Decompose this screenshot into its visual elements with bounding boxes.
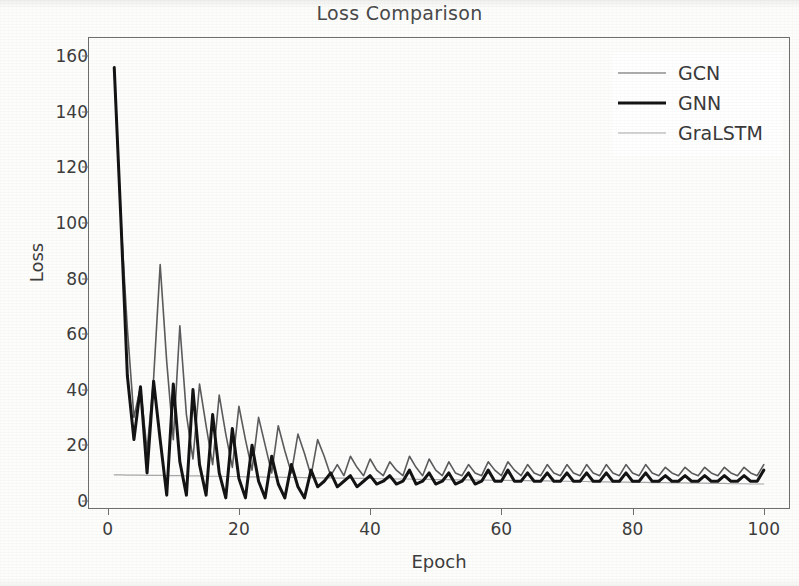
y-tick-label: 0 xyxy=(30,491,88,511)
x-tick-label: 80 xyxy=(622,519,644,539)
y-tick-label: 20 xyxy=(30,435,88,455)
y-tick-label: 160 xyxy=(30,46,88,66)
x-tick-label: 40 xyxy=(359,519,381,539)
legend-label-gnn: GNN xyxy=(678,94,721,113)
y-tick-label: 140 xyxy=(30,102,88,122)
chart-title: Loss Comparison xyxy=(0,2,799,24)
x-tick-mark xyxy=(370,509,371,515)
x-tick-mark xyxy=(501,509,502,515)
y-axis-label: Loss xyxy=(26,203,47,323)
y-tick-label: 120 xyxy=(30,157,88,177)
x-axis-label: Epoch xyxy=(88,551,790,572)
legend-swatch-gnn xyxy=(618,96,666,110)
x-tick-mark xyxy=(108,509,109,515)
legend-item-gralstm: GraLSTM xyxy=(618,118,778,148)
x-tick-mark xyxy=(764,509,765,515)
legend-item-gcn: GCN xyxy=(618,58,778,88)
legend-swatch-gcn xyxy=(618,66,666,80)
x-tick-mark xyxy=(633,509,634,515)
legend-swatch-gralstm xyxy=(618,126,666,140)
y-tick-label: 60 xyxy=(30,324,88,344)
legend: GCN GNN GraLSTM xyxy=(612,52,782,156)
x-tick-label: 20 xyxy=(228,519,250,539)
x-tick-label: 60 xyxy=(490,519,512,539)
chart-figure: Loss Comparison 020406080100120140160 02… xyxy=(0,0,799,586)
x-tick-mark xyxy=(239,509,240,515)
legend-item-gnn: GNN xyxy=(618,88,778,118)
x-tick-label: 100 xyxy=(748,519,780,539)
legend-label-gralstm: GraLSTM xyxy=(678,124,763,143)
legend-label-gcn: GCN xyxy=(678,64,720,83)
x-tick-label: 0 xyxy=(102,519,113,539)
y-tick-label: 40 xyxy=(30,380,88,400)
x-axis-ticks: 020406080100 xyxy=(88,509,790,549)
